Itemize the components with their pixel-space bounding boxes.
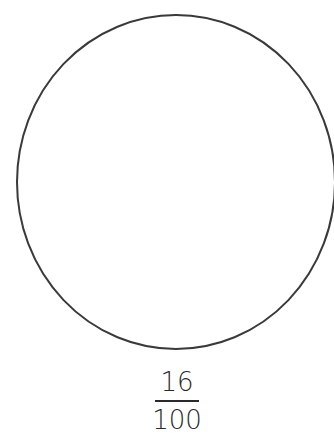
fraction-denominator: 100: [152, 406, 202, 434]
fraction-bar: [155, 400, 199, 402]
circle-outline: [17, 15, 334, 349]
fraction-numerator: 16: [160, 368, 193, 396]
diagram-canvas: 16 100: [0, 0, 334, 443]
fraction-label: 16 100: [150, 368, 204, 434]
